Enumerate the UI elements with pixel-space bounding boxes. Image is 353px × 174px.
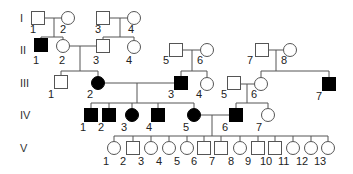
individual-label: 1	[103, 155, 109, 167]
affected-female-circle-icon	[126, 109, 139, 122]
male-square-icon	[228, 77, 241, 90]
individual-label: 9	[245, 155, 251, 167]
individual-II-2: 2	[57, 40, 70, 67]
individual-label: 5	[163, 54, 169, 66]
individual-label: 6	[222, 121, 228, 133]
male-square-icon	[127, 142, 140, 155]
individual-V-2: 2	[120, 142, 140, 168]
individual-label: 3	[121, 121, 127, 133]
individual-III-4: 4	[196, 78, 214, 101]
individual-label: 2	[59, 54, 65, 66]
individual-label: 8	[281, 54, 287, 66]
individual-IV-4: 4	[146, 109, 165, 134]
individual-label: 1	[80, 121, 86, 133]
female-circle-icon	[57, 40, 70, 53]
individual-II-4: 4	[126, 41, 141, 67]
male-square-icon	[256, 44, 269, 57]
individual-label: 7	[247, 54, 253, 66]
generation-label-IV: IV	[20, 109, 31, 121]
female-circle-icon	[181, 142, 194, 155]
individual-label: 10	[260, 155, 272, 167]
affected-male-square-icon	[230, 109, 243, 122]
individual-label: 12	[296, 155, 308, 167]
individual-label: 5	[174, 155, 180, 167]
generation-label-V: V	[20, 142, 28, 154]
male-square-icon	[269, 142, 282, 155]
individual-III-6: 6	[251, 78, 268, 101]
individual-label: 2	[98, 121, 104, 133]
individual-label: 4	[128, 23, 134, 35]
individual-label: 7	[316, 90, 322, 102]
individual-V-7: 7	[209, 142, 228, 168]
individual-IV-2: 2	[98, 109, 116, 134]
individual-IV-7: 7	[256, 109, 275, 134]
individual-II-8: 8	[281, 44, 297, 67]
individual-I-4: 4	[128, 12, 141, 36]
individual-label: 4	[196, 88, 202, 100]
affected-female-circle-icon	[92, 77, 105, 90]
individual-label: 1	[30, 23, 36, 35]
individual-I-1: 1	[30, 12, 45, 36]
individual-label: 1	[33, 54, 39, 66]
individual-II-6: 6	[197, 44, 214, 67]
male-square-icon	[215, 142, 228, 155]
individual-III-1: 1	[48, 76, 68, 101]
individual-III-7: 7	[316, 78, 336, 103]
individual-label: 4	[156, 155, 162, 167]
individual-label: 3	[93, 54, 99, 66]
individual-label: 2	[87, 88, 93, 100]
female-circle-icon	[262, 109, 275, 122]
individual-label: 4	[126, 54, 132, 66]
female-circle-icon	[322, 142, 335, 155]
affected-male-square-icon	[175, 77, 188, 90]
generation-label-III: III	[20, 77, 29, 89]
individual-label: 11	[278, 155, 289, 167]
male-square-icon	[198, 142, 211, 155]
female-circle-icon	[234, 142, 247, 155]
individual-label: 6	[197, 54, 203, 66]
individual-label: 6	[251, 88, 257, 100]
pedigree-canvas: IIIIIIIVV 123412345678123456712345671234…	[0, 0, 353, 174]
male-square-icon	[252, 142, 265, 155]
individual-label: 2	[60, 23, 66, 35]
individual-label: 5	[183, 121, 189, 133]
individual-V-8: 8	[228, 142, 247, 168]
individual-I-2: 2	[60, 12, 75, 36]
individual-label: 5	[221, 88, 227, 100]
affected-male-square-icon	[85, 109, 98, 122]
individual-label: 13	[314, 155, 326, 167]
individual-I-3: 3	[95, 12, 110, 36]
individual-III-5: 5	[221, 77, 241, 101]
female-circle-icon	[128, 41, 141, 54]
individual-label: 1	[48, 88, 54, 100]
female-circle-icon	[145, 142, 158, 155]
individual-label: 4	[146, 121, 152, 133]
individual-IV-3: 3	[121, 109, 139, 134]
generation-label-I: I	[20, 12, 23, 24]
individual-V-4: 4	[156, 142, 176, 168]
individual-IV-1: 1	[80, 109, 98, 134]
individual-label: 6	[191, 155, 197, 167]
individual-III-2: 2	[87, 77, 105, 101]
pedigree-diagram: IIIIIIIVV 123412345678123456712345671234…	[0, 0, 353, 174]
individual-III-3: 3	[168, 77, 188, 101]
affected-male-square-icon	[323, 78, 336, 91]
female-circle-icon	[201, 78, 214, 91]
individuals: 1234123456781234567123456712345678910111…	[30, 12, 336, 168]
female-circle-icon	[287, 142, 300, 155]
affected-male-square-icon	[35, 39, 48, 52]
individual-V-1: 1	[103, 142, 121, 168]
individual-V-3: 3	[138, 142, 158, 168]
individual-II-7: 7	[247, 44, 269, 67]
individual-label: 2	[120, 155, 126, 167]
affected-female-circle-icon	[188, 109, 201, 122]
female-circle-icon	[108, 142, 121, 155]
individual-V-6: 6	[191, 142, 211, 168]
individual-label: 7	[209, 155, 215, 167]
individual-II-1: 1	[33, 39, 48, 67]
individual-label: 3	[138, 155, 144, 167]
male-square-icon	[55, 76, 68, 89]
female-circle-icon	[163, 142, 176, 155]
female-circle-icon	[305, 142, 318, 155]
individual-label: 7	[256, 121, 262, 133]
